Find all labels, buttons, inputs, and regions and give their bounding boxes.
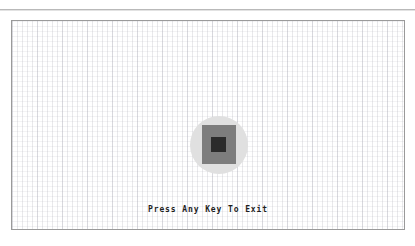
canvas-frame: Press Any Key To Exit xyxy=(11,20,405,230)
inner-square-shape xyxy=(211,137,226,152)
press-any-key-prompt[interactable]: Press Any Key To Exit xyxy=(12,205,404,214)
nested-shapes-graphic xyxy=(190,116,248,174)
top-divider-rule-shadow xyxy=(0,10,415,11)
